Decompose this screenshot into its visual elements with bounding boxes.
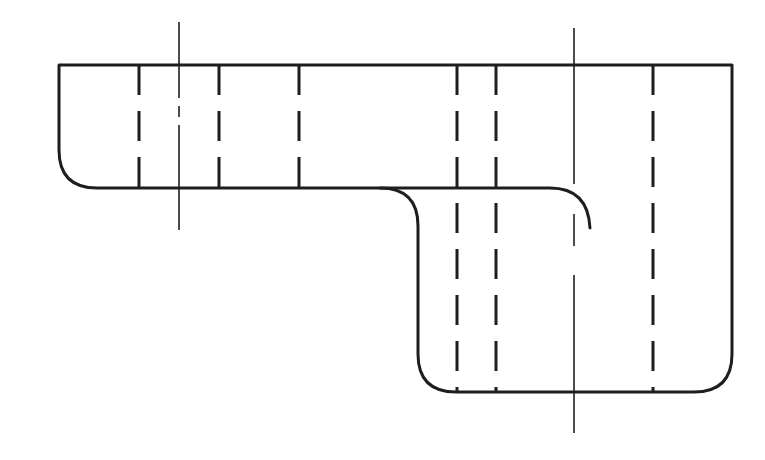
- notch-arc: [380, 188, 590, 228]
- technical-drawing: [0, 0, 765, 460]
- part-outline: [59, 65, 732, 392]
- drawing-canvas: [0, 0, 765, 460]
